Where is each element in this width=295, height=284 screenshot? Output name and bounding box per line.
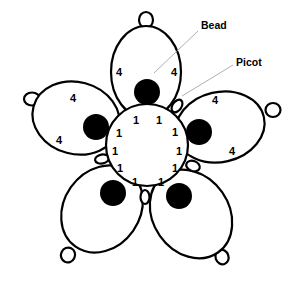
tatting-flower-diagram: 4 4 4 4 4 4 1 1 1 1 1 1 1 1 1 1 Bead Pic… — [0, 0, 295, 284]
picot-bottom-left — [58, 245, 77, 265]
count-left-bottom: 4 — [56, 134, 63, 146]
center-count-2: 1 — [156, 114, 162, 126]
bead-label: Bead — [201, 19, 227, 31]
center-count-9: 1 — [112, 145, 118, 157]
bead-bottom-left — [100, 180, 126, 206]
center-count-1: 1 — [133, 114, 139, 126]
bead-top — [134, 79, 160, 105]
center-count-6: 1 — [158, 176, 164, 188]
bead-left — [83, 114, 109, 140]
count-top-left: 4 — [116, 66, 123, 78]
center-count-4: 1 — [176, 145, 182, 157]
inner-picot-bottom — [141, 190, 150, 204]
center-count-7: 1 — [132, 176, 138, 188]
bead-right — [186, 119, 212, 145]
center-count-3: 1 — [172, 126, 178, 138]
count-right-top: 4 — [212, 94, 219, 106]
bead-bottom-right — [166, 183, 192, 209]
center-count-5: 1 — [172, 162, 178, 174]
count-right-bottom: 4 — [229, 145, 236, 157]
count-left-top: 4 — [70, 92, 77, 104]
picot-label: Picot — [236, 56, 262, 68]
count-top-right: 4 — [171, 66, 178, 78]
center-count-8: 1 — [117, 162, 123, 174]
center-count-10: 1 — [116, 127, 122, 139]
picot-right — [266, 103, 281, 117]
